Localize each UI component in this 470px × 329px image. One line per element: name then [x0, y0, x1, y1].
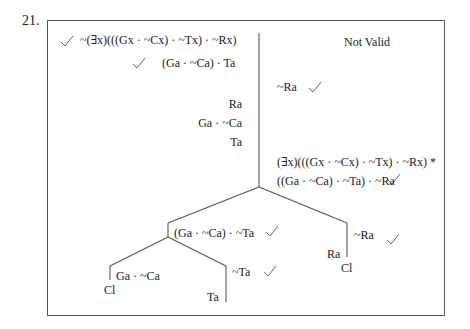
negated-conclusion: ~Ra [277, 80, 297, 94]
formula-line3: Ra [200, 97, 242, 111]
premise-formula: ~(∃x)(((Gx · ~Cx) · ~Tx) · ~Rx) [80, 33, 236, 47]
check-icon [61, 36, 73, 46]
left-branch-head: (Ga · ~Ca) · ~Ta [174, 226, 254, 240]
formula-line2: (Ga · ~Ca) · Ta [162, 56, 235, 70]
formula-line5: Ta [200, 135, 242, 149]
right-branch-head: ~Ra [354, 228, 374, 242]
formula-line4: Ga · ~Ca [170, 116, 242, 130]
sub-left-formula: Ga · ~Ca [116, 269, 160, 283]
sub-right-formula: ~Ta [232, 265, 250, 279]
check-icon [264, 266, 276, 276]
branch-left-line [168, 187, 259, 223]
check-icon [133, 58, 145, 68]
right-branch-closed: Cl [341, 261, 352, 275]
sub-left-closed: Cl [104, 283, 115, 297]
instantiated-formula: ((Ga · ~Ca) · ~Ta) · ~Ra [277, 174, 395, 188]
check-icon [387, 234, 399, 244]
sub-right-leaf: Ta [207, 290, 219, 304]
branch-right-line [259, 187, 347, 223]
verdict-label: Not Valid [344, 35, 390, 49]
check-icon [309, 82, 321, 92]
right-branch-leaf: Ra [327, 247, 340, 261]
existential-formula: (∃x)(((Gx · ~Cx) · ~Tx) · ~Rx) * [277, 155, 436, 169]
check-icon [266, 226, 278, 236]
